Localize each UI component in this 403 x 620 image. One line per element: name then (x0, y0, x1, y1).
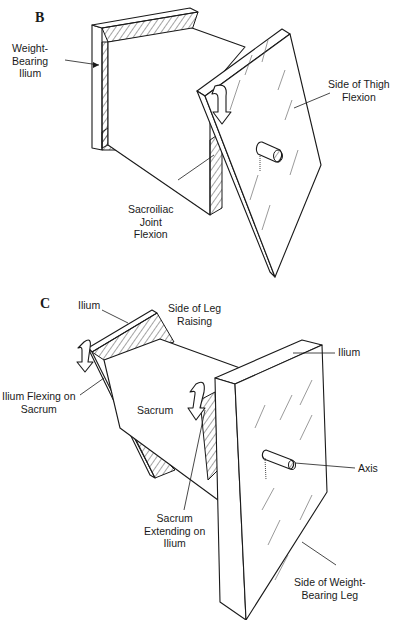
label-sacrum-extending-on-ilium: Sacrum Extending on Ilium (144, 512, 205, 550)
label-ilium-flexing-on-sacrum: Ilium Flexing on Sacrum (2, 390, 76, 415)
label-weight-bearing-ilium: Weight- Bearing Ilium (12, 42, 48, 80)
label-sacroiliac-joint-flexion: Sacroiliac Joint Flexion (128, 203, 174, 241)
panel-c-letter: C (40, 296, 50, 312)
label-side-of-leg-raising: Side of Leg Raising (168, 302, 221, 327)
weight-bearing-ilium-front (92, 25, 102, 150)
label-ilium-top: Ilium (78, 299, 100, 312)
label-axis: Axis (358, 462, 378, 475)
panel-c-drawing (77, 310, 355, 620)
label-side-of-thigh-flexion: Side of Thigh Flexion (328, 78, 390, 103)
label-sacrum: Sacrum (137, 404, 173, 417)
label-ilium-right: Ilium (338, 346, 360, 359)
ilium-flexing-arrow-icon (77, 340, 93, 372)
panel-b-drawing (65, 8, 330, 277)
panel-b-letter: B (35, 10, 44, 26)
label-side-of-weight-bearing-leg: Side of Weight- Bearing Leg (294, 576, 366, 601)
